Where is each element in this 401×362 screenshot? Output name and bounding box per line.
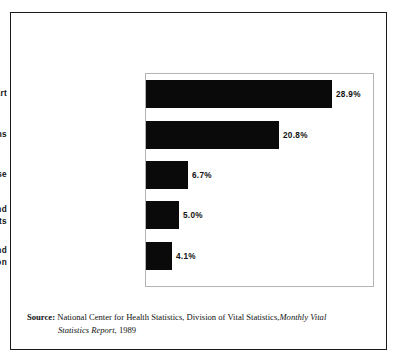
figure-outer-frame: Diseases of the Heart 28.9% Malignant Ne… [10,12,387,350]
bar-homicide-and-legal-intervention [146,242,172,270]
bar-value-label: 4.1% [176,252,196,261]
bar-value-label: 20.8% [283,131,308,140]
bar-value-label: 28.9% [336,90,361,99]
bar-row: Homicide and Legal Intervention 4.1% [11,242,388,270]
source-text-line2: Statistics Report, 1989 [27,324,375,337]
bar-row: Diseases of the Heart 28.9% [11,80,388,108]
source-publication-title-part1: Monthly Vital [279,312,326,322]
bar-cerebrovascular-disease [146,161,188,189]
bar-malignant-neoplasms [146,121,279,149]
source-publication-title-part2: Statistics Report [58,325,115,335]
category-label: Accidents and Adverse Effects [0,204,7,227]
bar-row: Accidents and Adverse Effects 5.0% [11,201,388,229]
bar-value-label: 5.0% [183,211,203,220]
bar-row: Cerebrovascular Disease 6.7% [11,161,388,189]
category-label: Malignant Neoplasms [0,129,7,141]
category-label: Homicide and Legal Intervention [0,245,7,268]
category-label: Diseases of the Heart [0,88,7,100]
bar-row: Malignant Neoplasms 20.8% [11,121,388,149]
category-label: Cerebrovascular Disease [0,169,7,181]
bar-chart: Diseases of the Heart 28.9% Malignant Ne… [11,13,388,303]
bar-value-label: 6.7% [192,171,212,180]
source-text-line1: National Center for Health Statistics, D… [57,312,279,322]
bar-accidents-and-adverse-effects [146,201,179,229]
source-label: Source: [27,312,55,322]
source-note: Source: National Center for Health Stati… [27,311,375,336]
bar-diseases-of-the-heart [146,80,332,108]
source-year: , 1989 [115,325,136,335]
